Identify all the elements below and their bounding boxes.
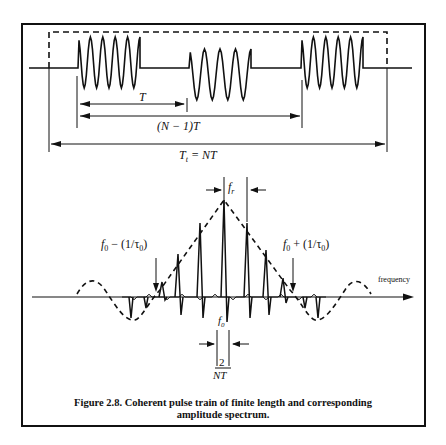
label-width-denominator: NT	[213, 369, 226, 381]
spectrum-lines	[122, 200, 326, 322]
label-n-minus-1-T: (N − 1)T	[157, 119, 200, 134]
label-period-T: T	[139, 90, 146, 105]
label-upper-sideband: f0 + (1/τ0)	[283, 237, 329, 253]
frequency-axis-label: frequency	[378, 275, 410, 284]
label-f0: f0	[218, 314, 225, 329]
label-lower-sideband: f0 − (1/τ0)	[101, 237, 147, 253]
figure-caption: Figure 2.8. Coherent pulse train of fini…	[30, 397, 416, 421]
pulse-train-signal	[29, 37, 412, 100]
label-fr: fr	[228, 180, 234, 196]
label-total-duration: Tt = NT	[179, 148, 217, 164]
label-width-numerator: 2	[219, 356, 225, 368]
